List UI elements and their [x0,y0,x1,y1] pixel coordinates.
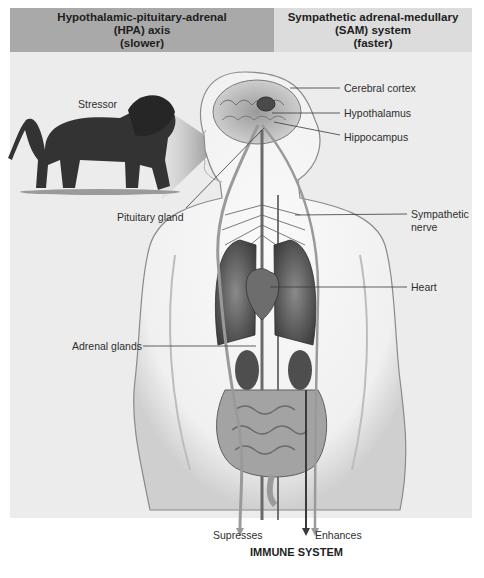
label-heart: Heart [411,281,437,293]
label-sympathetic-nerve-line2: nerve [411,221,437,233]
label-adrenal-glands: Adrenal glands [72,340,142,352]
label-sympathetic-nerve-line1: Sympathetic [411,208,469,220]
label-cerebral-cortex: Cerebral cortex [344,82,416,94]
label-enhances: Enhances [315,529,362,541]
immune-system-title: IMMUNE SYSTEM [250,546,343,558]
label-stressor: Stressor [78,98,117,110]
label-supresses: Supresses [213,529,263,541]
hypothalamus-shape [257,97,275,111]
lion-stressor [8,95,180,195]
label-hypothalamus: Hypothalamus [344,107,411,119]
brain [213,80,301,144]
label-hippocampus: Hippocampus [344,131,408,143]
label-pituitary-gland: Pituitary gland [117,211,184,223]
enhances-arrowhead [302,528,310,536]
